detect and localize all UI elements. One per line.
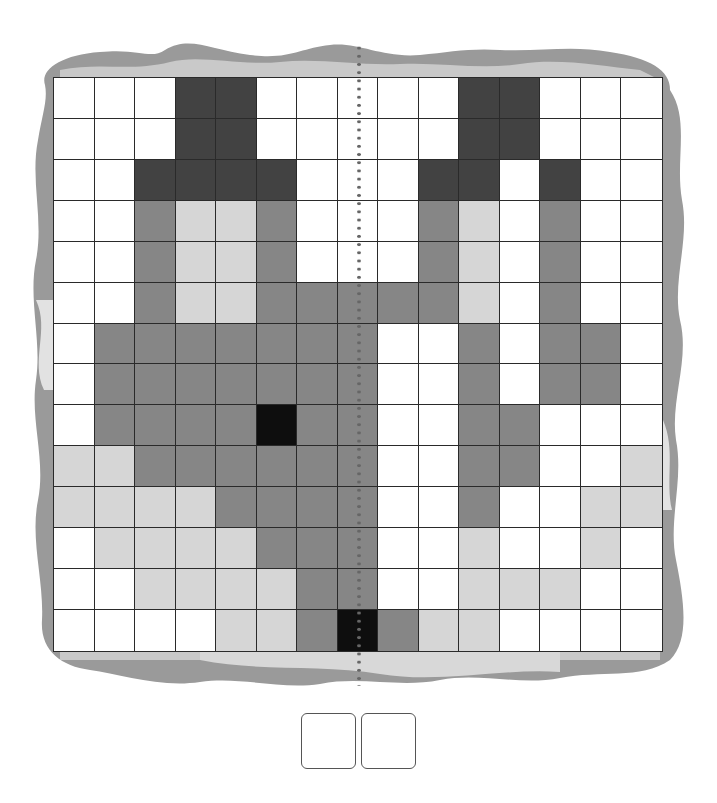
grid-cell[interactable] bbox=[297, 324, 338, 365]
grid-cell[interactable] bbox=[419, 528, 460, 569]
grid-cell[interactable] bbox=[216, 610, 257, 651]
grid-cell[interactable] bbox=[54, 283, 95, 324]
grid-cell[interactable] bbox=[135, 610, 176, 651]
grid-cell[interactable] bbox=[176, 324, 217, 365]
grid-cell[interactable] bbox=[540, 201, 581, 242]
grid-cell[interactable] bbox=[176, 446, 217, 487]
answer-box-2[interactable] bbox=[361, 713, 416, 769]
grid-cell[interactable] bbox=[297, 446, 338, 487]
grid-cell[interactable] bbox=[378, 405, 419, 446]
grid-cell[interactable] bbox=[419, 364, 460, 405]
grid-cell[interactable] bbox=[419, 242, 460, 283]
grid-cell[interactable] bbox=[297, 487, 338, 528]
grid-cell[interactable] bbox=[621, 160, 662, 201]
grid-cell[interactable] bbox=[135, 405, 176, 446]
grid-cell[interactable] bbox=[540, 364, 581, 405]
grid-cell[interactable] bbox=[459, 78, 500, 119]
grid-cell[interactable] bbox=[540, 119, 581, 160]
grid-cell[interactable] bbox=[459, 446, 500, 487]
grid-cell[interactable] bbox=[378, 364, 419, 405]
grid-cell[interactable] bbox=[581, 78, 622, 119]
grid-cell[interactable] bbox=[257, 446, 298, 487]
grid-cell[interactable] bbox=[257, 528, 298, 569]
grid-cell[interactable] bbox=[581, 446, 622, 487]
grid-cell[interactable] bbox=[135, 242, 176, 283]
grid-cell[interactable] bbox=[540, 528, 581, 569]
grid-cell[interactable] bbox=[216, 201, 257, 242]
grid-cell[interactable] bbox=[257, 119, 298, 160]
grid-cell[interactable] bbox=[257, 324, 298, 365]
grid-cell[interactable] bbox=[378, 569, 419, 610]
grid-cell[interactable] bbox=[500, 201, 541, 242]
grid-cell[interactable] bbox=[419, 569, 460, 610]
grid-cell[interactable] bbox=[540, 487, 581, 528]
grid-cell[interactable] bbox=[257, 405, 298, 446]
grid-cell[interactable] bbox=[378, 242, 419, 283]
grid-cell[interactable] bbox=[176, 242, 217, 283]
grid-cell[interactable] bbox=[257, 160, 298, 201]
grid-cell[interactable] bbox=[297, 78, 338, 119]
grid-cell[interactable] bbox=[500, 283, 541, 324]
grid-cell[interactable] bbox=[216, 487, 257, 528]
grid-cell[interactable] bbox=[297, 528, 338, 569]
grid-cell[interactable] bbox=[135, 119, 176, 160]
grid-cell[interactable] bbox=[176, 364, 217, 405]
grid-cell[interactable] bbox=[500, 528, 541, 569]
grid-cell[interactable] bbox=[378, 283, 419, 324]
grid-cell[interactable] bbox=[378, 610, 419, 651]
grid-cell[interactable] bbox=[257, 78, 298, 119]
grid-cell[interactable] bbox=[297, 201, 338, 242]
grid-cell[interactable] bbox=[135, 528, 176, 569]
grid-cell[interactable] bbox=[257, 283, 298, 324]
grid-cell[interactable] bbox=[459, 201, 500, 242]
grid-cell[interactable] bbox=[95, 610, 136, 651]
grid-cell[interactable] bbox=[459, 283, 500, 324]
grid-cell[interactable] bbox=[540, 405, 581, 446]
grid-cell[interactable] bbox=[540, 283, 581, 324]
grid-cell[interactable] bbox=[621, 364, 662, 405]
grid-cell[interactable] bbox=[54, 119, 95, 160]
grid-cell[interactable] bbox=[216, 324, 257, 365]
grid-cell[interactable] bbox=[135, 201, 176, 242]
grid-cell[interactable] bbox=[540, 324, 581, 365]
grid-cell[interactable] bbox=[297, 283, 338, 324]
grid-cell[interactable] bbox=[500, 487, 541, 528]
grid-cell[interactable] bbox=[297, 610, 338, 651]
grid-cell[interactable] bbox=[54, 405, 95, 446]
grid-cell[interactable] bbox=[500, 446, 541, 487]
grid-cell[interactable] bbox=[621, 610, 662, 651]
grid-cell[interactable] bbox=[216, 242, 257, 283]
grid-cell[interactable] bbox=[459, 324, 500, 365]
grid-cell[interactable] bbox=[378, 78, 419, 119]
grid-cell[interactable] bbox=[54, 364, 95, 405]
grid-cell[interactable] bbox=[297, 569, 338, 610]
grid-cell[interactable] bbox=[216, 569, 257, 610]
grid-cell[interactable] bbox=[378, 487, 419, 528]
grid-cell[interactable] bbox=[176, 119, 217, 160]
grid-cell[interactable] bbox=[135, 446, 176, 487]
grid-cell[interactable] bbox=[54, 610, 95, 651]
grid-cell[interactable] bbox=[54, 487, 95, 528]
grid-cell[interactable] bbox=[581, 160, 622, 201]
grid-cell[interactable] bbox=[95, 160, 136, 201]
grid-cell[interactable] bbox=[216, 78, 257, 119]
grid-cell[interactable] bbox=[257, 364, 298, 405]
grid-cell[interactable] bbox=[257, 610, 298, 651]
grid-cell[interactable] bbox=[419, 78, 460, 119]
grid-cell[interactable] bbox=[419, 487, 460, 528]
grid-cell[interactable] bbox=[459, 160, 500, 201]
grid-cell[interactable] bbox=[581, 242, 622, 283]
grid-cell[interactable] bbox=[378, 119, 419, 160]
grid-cell[interactable] bbox=[95, 405, 136, 446]
grid-cell[interactable] bbox=[95, 364, 136, 405]
grid-cell[interactable] bbox=[216, 364, 257, 405]
grid-cell[interactable] bbox=[378, 201, 419, 242]
grid-cell[interactable] bbox=[540, 446, 581, 487]
grid-cell[interactable] bbox=[135, 487, 176, 528]
grid-cell[interactable] bbox=[54, 446, 95, 487]
grid-cell[interactable] bbox=[419, 610, 460, 651]
grid-cell[interactable] bbox=[621, 487, 662, 528]
grid-cell[interactable] bbox=[621, 78, 662, 119]
grid-cell[interactable] bbox=[459, 487, 500, 528]
grid-cell[interactable] bbox=[621, 446, 662, 487]
